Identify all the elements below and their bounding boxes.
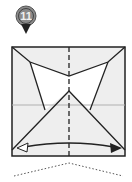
- bottom-dotted-guide: [14, 163, 123, 176]
- origami-diagram: [0, 0, 132, 182]
